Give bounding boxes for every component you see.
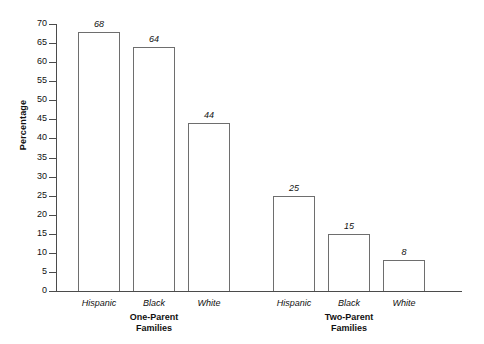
y-tick-label: 30 bbox=[21, 172, 47, 181]
y-tick-label: 65 bbox=[21, 38, 47, 47]
bar bbox=[133, 47, 175, 291]
y-tick-label: 40 bbox=[21, 133, 47, 142]
y-tick-mark bbox=[49, 81, 56, 82]
y-tick-label: 60 bbox=[21, 57, 47, 66]
x-group-label-line2: Families bbox=[94, 323, 214, 334]
y-tick-mark bbox=[49, 62, 56, 63]
bar bbox=[188, 123, 230, 291]
x-group-label-line1: Two-Parent bbox=[289, 312, 409, 323]
x-group-label-line2: Families bbox=[289, 323, 409, 334]
y-tick-label: 35 bbox=[21, 153, 47, 162]
y-tick-label: 25 bbox=[21, 191, 47, 200]
bar bbox=[273, 196, 315, 291]
y-tick-mark bbox=[49, 24, 56, 25]
y-tick-mark bbox=[49, 138, 56, 139]
x-group-label-line1: One-Parent bbox=[94, 312, 214, 323]
y-tick-label: 0 bbox=[21, 286, 47, 295]
bar-value-label: 64 bbox=[123, 34, 185, 44]
y-tick-label: 15 bbox=[21, 229, 47, 238]
y-tick-mark bbox=[49, 215, 56, 216]
x-category-label: White bbox=[170, 298, 248, 309]
y-axis-line bbox=[56, 24, 57, 292]
y-tick-mark bbox=[49, 119, 56, 120]
y-tick-label: 50 bbox=[21, 95, 47, 104]
x-category-label: White bbox=[365, 298, 443, 309]
y-tick-mark bbox=[49, 234, 56, 235]
y-tick-mark bbox=[49, 272, 56, 273]
y-tick-mark bbox=[49, 291, 56, 292]
x-axis-line bbox=[56, 291, 462, 292]
y-tick-label: 20 bbox=[21, 210, 47, 219]
x-group-label: Two-ParentFamilies bbox=[289, 312, 409, 334]
bar-value-label: 68 bbox=[68, 19, 130, 29]
bar bbox=[78, 32, 120, 291]
bar-value-label: 8 bbox=[373, 247, 435, 257]
y-tick-mark bbox=[49, 253, 56, 254]
bar bbox=[328, 234, 370, 291]
y-tick-label: 10 bbox=[21, 248, 47, 257]
y-tick-label: 5 bbox=[21, 267, 47, 276]
y-tick-mark bbox=[49, 100, 56, 101]
bar-chart: Percentage 7065605550454035302520151050 … bbox=[0, 0, 484, 344]
bar-value-label: 15 bbox=[318, 221, 380, 231]
x-group-label: One-ParentFamilies bbox=[94, 312, 214, 334]
bar-value-label: 44 bbox=[178, 110, 240, 120]
y-tick-mark bbox=[49, 43, 56, 44]
y-tick-mark bbox=[49, 196, 56, 197]
bar-value-label: 25 bbox=[263, 183, 325, 193]
bar bbox=[383, 260, 425, 291]
y-tick-mark bbox=[49, 158, 56, 159]
y-tick-mark bbox=[49, 177, 56, 178]
y-tick-label: 70 bbox=[21, 19, 47, 28]
y-tick-label: 55 bbox=[21, 76, 47, 85]
y-tick-label: 45 bbox=[21, 114, 47, 123]
